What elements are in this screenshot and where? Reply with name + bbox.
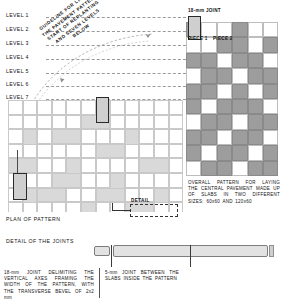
slab-tile-filled: [217, 114, 232, 129]
slab-tile-filled: [217, 68, 232, 83]
slab-tile-filled: [201, 114, 216, 129]
slab-tile-void: [248, 145, 263, 160]
slab-tile-void: [96, 129, 111, 144]
dark-pattern-grid: [186, 22, 282, 182]
note-joint-vertical: 18-mm JOINT DELIMITING THE VERTICAL AXES…: [4, 270, 94, 301]
slab-tile-filled: [232, 145, 247, 160]
slab-tile-void: [110, 100, 125, 115]
slab-tile-void: [96, 158, 111, 173]
slab-tile-void: [23, 202, 38, 212]
detail-leader-elbow: [112, 203, 113, 211]
slab-tile-void: [154, 115, 169, 130]
slab-tile-void: [8, 129, 23, 144]
slab-tile-void: [186, 68, 201, 83]
slab-tile-void: [8, 100, 23, 115]
slab-tile-void: [23, 100, 38, 115]
slab-tile-void: [8, 144, 23, 159]
slab-tile-void: [52, 202, 67, 212]
slab-tile-filled: [186, 145, 201, 160]
slab-tile-void: [186, 161, 201, 176]
slab-tile-void: [186, 114, 201, 129]
slab-tile-filled: [201, 130, 216, 145]
slab-tile-filled: [52, 129, 81, 144]
slab-tile-filled: [263, 84, 278, 99]
slab-tile-filled: [186, 99, 201, 114]
slab-tile-void: [66, 100, 81, 115]
slab-tile-filled: [201, 84, 216, 99]
slab-tile-filled: [217, 161, 232, 176]
slab-tile-filled: [201, 53, 216, 68]
note-overall-pattern: OVERALL PATTERN FOR LAYING THE CENTRAL P…: [188, 180, 280, 205]
slab-tile-filled: [8, 158, 37, 173]
slab-tile-void: [169, 115, 184, 130]
slab-tile-void: [23, 115, 38, 130]
slab-tile-void: [8, 202, 23, 212]
slab-tile-filled: [232, 37, 247, 52]
slab-tile-filled: [263, 145, 278, 160]
level-label: LEVEL 1: [6, 10, 29, 20]
slab-tile-void: [169, 158, 184, 173]
slab-profile-end: [269, 245, 274, 257]
slab-tile-void: [263, 130, 278, 145]
slab-tile-void: [232, 114, 247, 129]
level-label: LEVEL 6: [6, 79, 29, 89]
slab-tile-void: [37, 202, 52, 212]
slab-tile-filled: [248, 130, 263, 145]
slab-tile-void: [139, 173, 154, 188]
slab-tile-void: [263, 22, 278, 37]
slab-tile-void: [66, 202, 81, 212]
slab-tile-filled: [139, 158, 168, 173]
level-label: LEVEL 5: [6, 66, 29, 76]
slab-tile-void: [52, 158, 67, 173]
slab-tile-void: [81, 100, 96, 115]
slab-tile-void: [23, 144, 38, 159]
slab-tile-void: [110, 129, 125, 144]
slab-tile-filled: [232, 53, 247, 68]
slab-tile-void: [81, 188, 96, 203]
slab-tile-void: [8, 115, 23, 130]
slab-tile-filled: [96, 188, 125, 203]
slab-tile-void: [217, 84, 232, 99]
label-piece-1: PIECE 1: [188, 36, 208, 42]
slab-tile-filled: [232, 22, 247, 37]
detail-leader-line: [112, 210, 130, 211]
slab-tile-filled: [232, 84, 247, 99]
slab-tile-void: [110, 115, 125, 130]
detail-callout-label: DETAIL: [131, 198, 150, 203]
slab-tile-void: [139, 129, 154, 144]
level-label: LEVEL 4: [6, 52, 29, 62]
label-piece-2: PIECE 2: [213, 36, 233, 42]
slab-tile-void: [37, 144, 52, 159]
slab-tile-void: [232, 68, 247, 83]
slab-tile-filled: [81, 202, 96, 212]
detail-callout-box[interactable]: [130, 204, 178, 217]
slab-tile-void: [169, 188, 184, 203]
slab-tile-void: [96, 202, 111, 212]
slab-tile-void: [125, 173, 140, 188]
slab-tile-void: [52, 100, 67, 115]
note-divider: [99, 268, 100, 298]
slab-tile-void: [154, 129, 169, 144]
slab-tile-void: [66, 144, 81, 159]
slab-tile-void: [96, 173, 111, 188]
slab-tile-void: [248, 22, 263, 37]
slab-tile-void: [263, 99, 278, 114]
slab-tile-void: [125, 115, 140, 130]
slab-tile-filled: [263, 114, 278, 129]
piece-highlight-center: [96, 97, 109, 123]
slab-tile-filled: [186, 53, 201, 68]
slab-tile-void: [81, 144, 96, 159]
slab-tile-filled: [248, 161, 263, 176]
slab-tile-void: [139, 115, 154, 130]
label-18mm-joint: 18-mm JOINT: [188, 8, 221, 14]
slab-tile-filled: [248, 99, 263, 114]
slab-tile-void: [37, 129, 52, 144]
piece-highlight-left: [13, 173, 27, 200]
slab-tile-filled: [201, 68, 216, 83]
level-guide-line: [46, 86, 186, 87]
slab-tile-filled: [232, 99, 247, 114]
slab-tile-filled: [232, 130, 247, 145]
slab-tile-void: [37, 100, 52, 115]
slab-tile-filled: [263, 68, 278, 83]
slab-tile-filled: [217, 99, 232, 114]
